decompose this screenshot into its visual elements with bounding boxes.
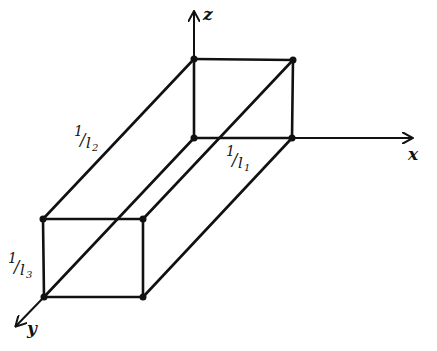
- label-1-over-l1: 1 / l 1: [226, 143, 250, 173]
- svg-text:l: l: [86, 134, 91, 152]
- back-face: [194, 59, 293, 138]
- svg-text:1: 1: [244, 162, 250, 173]
- label-1-over-l3: 1 / l 3: [8, 250, 32, 280]
- box-diagram: z x y 1 / l 2 1 / l 1 1 / l 3: [0, 0, 437, 351]
- svg-text:2: 2: [91, 142, 98, 153]
- x-axis-label: x: [407, 144, 419, 164]
- svg-text:3: 3: [26, 269, 32, 280]
- receding-edges: [43, 59, 293, 297]
- y-axis-label: y: [26, 318, 38, 338]
- label-1-over-l2: 1 / l 2: [74, 123, 98, 153]
- svg-text:l: l: [238, 154, 243, 172]
- vertices: [40, 56, 297, 301]
- z-axis-label: z: [202, 4, 213, 24]
- svg-text:l: l: [20, 261, 25, 279]
- front-face: [43, 219, 143, 297]
